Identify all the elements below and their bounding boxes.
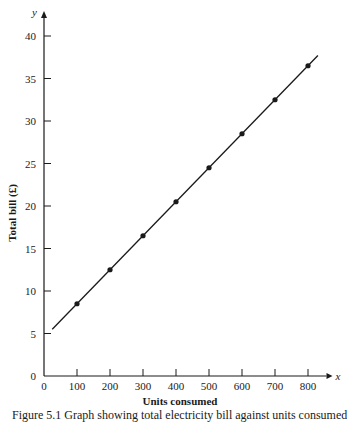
data-point <box>140 233 145 238</box>
x-axis-arrow-icon <box>327 373 333 379</box>
data-point <box>272 97 277 102</box>
x-tick-label: 500 <box>201 380 218 392</box>
x-tick-label: 300 <box>135 380 152 392</box>
x-tick-label: 400 <box>168 380 185 392</box>
y-axis-variable: y <box>31 6 37 18</box>
y-tick-label: 0 <box>31 370 37 382</box>
y-tick-label: 20 <box>25 200 37 212</box>
x-axis-variable: x <box>335 370 341 382</box>
y-axis-title: Total bill (£) <box>6 184 19 242</box>
y-tick-label: 35 <box>25 73 37 85</box>
y-tick-label: 40 <box>25 30 37 42</box>
trend-line <box>52 56 318 330</box>
y-tick-label: 30 <box>25 115 37 127</box>
x-tick-label: 100 <box>69 380 86 392</box>
x-tick-label: 200 <box>102 380 119 392</box>
y-tick-label: 25 <box>25 158 37 170</box>
data-point <box>206 165 211 170</box>
x-tick-label: 700 <box>267 380 284 392</box>
y-tick-label: 10 <box>25 285 37 297</box>
data-point <box>305 63 310 68</box>
x-tick-label: 0 <box>41 380 47 392</box>
data-point <box>107 267 112 272</box>
y-axis-arrow-icon <box>41 11 47 18</box>
data-point <box>173 199 178 204</box>
x-axis-title: Units consumed <box>143 395 218 407</box>
x-tick-label: 600 <box>234 380 251 392</box>
data-point <box>239 131 244 136</box>
y-tick-label: 5 <box>31 328 37 340</box>
x-tick-label: 800 <box>300 380 317 392</box>
data-point <box>74 301 79 306</box>
figure-caption: Figure 5.1 Graph showing total electrici… <box>12 408 347 423</box>
y-tick-label: 15 <box>25 243 37 255</box>
